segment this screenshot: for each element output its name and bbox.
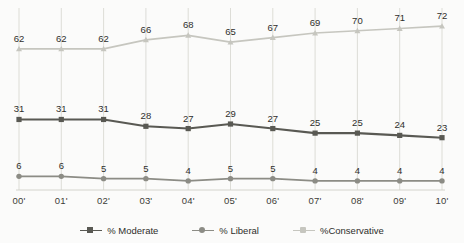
data-point-label: 27 <box>183 113 194 124</box>
data-point-label: 25 <box>352 117 363 128</box>
series-marker <box>59 117 64 122</box>
data-point-label: 4 <box>312 165 317 176</box>
data-point-label: 29 <box>225 108 236 119</box>
legend-entry[interactable]: % Liberal <box>192 225 259 236</box>
series-marker <box>270 176 275 181</box>
legend-label: % Liberal <box>219 225 259 236</box>
series-marker <box>101 117 106 122</box>
x-tick-label: 00' <box>13 195 26 206</box>
data-point-label: 5 <box>143 163 148 174</box>
series-marker <box>101 176 106 181</box>
data-point-label: 5 <box>101 163 106 174</box>
data-point-label: 69 <box>310 17 321 28</box>
data-point-label: 62 <box>56 33 67 44</box>
data-point-label: 4 <box>355 165 360 176</box>
x-tick-label: 08' <box>351 195 364 206</box>
legend-entry[interactable]: % Moderate <box>80 225 158 236</box>
legend-entry[interactable]: %Conservative <box>293 225 384 236</box>
series-marker <box>143 124 148 129</box>
data-point-label: 68 <box>183 19 194 30</box>
x-tick-label: 09' <box>393 195 406 206</box>
x-tick-label: 02' <box>97 195 110 206</box>
series-marker <box>228 176 233 181</box>
x-tick-label: 06' <box>266 195 279 206</box>
x-tick-label: 04' <box>182 195 195 206</box>
data-point-label: 4 <box>439 165 444 176</box>
data-point-label: 71 <box>394 12 405 23</box>
data-point-label: 31 <box>14 103 25 114</box>
series-marker <box>59 174 64 179</box>
data-point-label: 27 <box>268 113 279 124</box>
data-point-label: 31 <box>98 103 109 114</box>
data-point-label: 6 <box>59 160 64 171</box>
data-point-label: 66 <box>141 24 152 35</box>
data-point-label: 5 <box>270 163 275 174</box>
series-marker <box>186 178 191 183</box>
x-tick-label: 07' <box>309 195 322 206</box>
legend-label: %Conservative <box>320 225 384 236</box>
data-point-label: 65 <box>225 26 236 37</box>
legend-swatch-icon <box>192 225 214 235</box>
data-point-label: 4 <box>397 165 402 176</box>
data-point-label: 67 <box>268 22 279 33</box>
line-chart: 00'01'02'03'04'05'06'07'08'09'10' 313131… <box>0 0 464 243</box>
data-point-label: 24 <box>394 119 405 130</box>
legend-label: % Moderate <box>107 225 158 236</box>
data-point-label: 5 <box>228 163 233 174</box>
series-marker <box>397 178 402 183</box>
x-tick-label: 03' <box>139 195 152 206</box>
series-marker <box>397 133 402 138</box>
data-point-label: 4 <box>186 165 191 176</box>
data-point-label: 23 <box>437 122 448 133</box>
data-point-label: 70 <box>352 15 363 26</box>
data-point-label: 62 <box>98 33 109 44</box>
chart-legend: % Moderate% Liberal%Conservative <box>0 219 464 241</box>
series-marker <box>439 178 444 183</box>
data-point-label: 72 <box>437 10 448 21</box>
series-marker <box>270 126 275 131</box>
series-marker <box>228 121 233 126</box>
series-marker <box>355 131 360 136</box>
data-point-label: 28 <box>141 110 152 121</box>
series-marker <box>16 174 21 179</box>
data-point-label: 25 <box>310 117 321 128</box>
series-marker <box>439 135 444 140</box>
legend-swatch-icon <box>80 225 102 235</box>
x-tick-label: 01' <box>55 195 68 206</box>
x-tick-label: 10' <box>436 195 449 206</box>
series-marker <box>16 117 21 122</box>
series-marker <box>312 178 317 183</box>
series-marker <box>186 126 191 131</box>
series-marker <box>313 131 318 136</box>
data-point-label: 62 <box>14 33 25 44</box>
series-marker <box>143 176 148 181</box>
data-point-label: 31 <box>56 103 67 114</box>
data-point-label: 6 <box>16 160 21 171</box>
x-tick-label: 05' <box>224 195 237 206</box>
legend-swatch-icon <box>293 225 315 235</box>
series-marker <box>355 178 360 183</box>
